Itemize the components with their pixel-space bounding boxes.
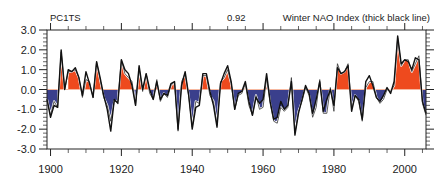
- x-tick-label: 2000: [393, 163, 417, 175]
- x-tick-label: 1900: [38, 163, 62, 175]
- y-tick-label: 3.0: [21, 24, 36, 36]
- y-tick-label: 2.0: [21, 44, 36, 56]
- title-left: PC1TS: [50, 12, 81, 23]
- title-center: 0.92: [227, 12, 246, 23]
- chart: 3.02.01.00.0-1.0-2.0-3.01900192019401960…: [0, 0, 446, 181]
- y-tick-label: -3.0: [17, 143, 36, 155]
- x-tick-label: 1960: [251, 163, 275, 175]
- x-tick-label: 1920: [109, 163, 133, 175]
- y-tick-label: 0.0: [21, 84, 36, 96]
- title-right: Winter NAO Index (thick black line): [283, 12, 430, 23]
- y-tick-label: -2.0: [17, 123, 36, 135]
- area-fills: [47, 38, 426, 133]
- x-tick-label: 1980: [322, 163, 346, 175]
- axes: 3.02.01.00.0-1.0-2.0-3.01900192019401960…: [17, 23, 434, 175]
- y-tick-label: 1.0: [21, 64, 36, 76]
- x-tick-label: 1940: [180, 163, 204, 175]
- y-tick-label: -1.0: [17, 103, 36, 115]
